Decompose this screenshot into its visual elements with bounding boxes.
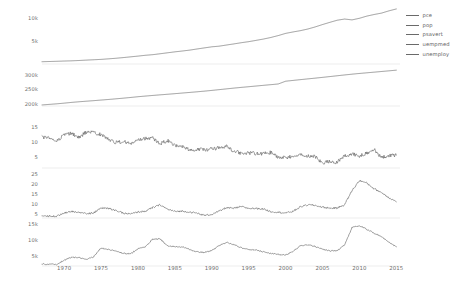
legend-item-psavert[interactable]: psavert xyxy=(406,30,464,40)
y-tick-uempmed-5: 5 xyxy=(35,212,38,217)
legend-line-icon xyxy=(406,34,419,35)
x-tick-2000: 2000 xyxy=(279,266,293,271)
x-tick-1975: 1975 xyxy=(94,266,108,271)
plot-area-pop xyxy=(42,70,400,106)
plot-area-unemploy xyxy=(42,222,400,266)
x-tick-1995: 1995 xyxy=(242,266,256,271)
legend-label: pop xyxy=(423,23,433,28)
x-tick-2005: 2005 xyxy=(315,266,329,271)
legend-label: unemploy xyxy=(423,52,450,57)
legend: pcepoppsavertuempmedunemploy xyxy=(406,11,464,59)
facet-panel-pce: 5k10k xyxy=(0,8,400,64)
data-path-uempmed xyxy=(42,180,396,217)
x-tick-1980: 1980 xyxy=(131,266,145,271)
legend-label: pce xyxy=(423,13,433,18)
series-line-pce xyxy=(42,8,400,64)
facet-panel-unemploy: 5k10k15k xyxy=(0,222,400,266)
facet-panel-pop: 200k250k300k xyxy=(0,70,400,106)
y-tick-pop-250k: 250k xyxy=(25,88,38,93)
legend-label: psavert xyxy=(423,32,443,37)
legend-line-icon xyxy=(406,44,419,45)
data-path-pce xyxy=(42,9,396,62)
chart-root: 5k10k 200k250k300k 51015 510152025 5k10k… xyxy=(0,0,466,293)
y-tick-pce-10k: 10k xyxy=(28,17,38,22)
series-line-pop xyxy=(42,70,400,106)
y-tick-uempmed-15: 15 xyxy=(31,192,38,197)
y-tick-psavert-10: 10 xyxy=(31,140,38,145)
y-tick-psavert-5: 5 xyxy=(35,155,38,160)
y-tick-unemploy-5k: 5k xyxy=(31,255,38,260)
series-line-psavert xyxy=(42,120,400,168)
legend-line-icon xyxy=(406,54,419,55)
y-axis-pop: 200k250k300k xyxy=(0,70,40,106)
legend-item-pce[interactable]: pce xyxy=(406,11,464,21)
y-axis-psavert: 51015 xyxy=(0,120,40,168)
series-line-uempmed xyxy=(42,172,400,218)
legend-item-pop[interactable]: pop xyxy=(406,21,464,31)
y-tick-uempmed-25: 25 xyxy=(31,172,38,177)
x-tick-1970: 1970 xyxy=(57,266,71,271)
legend-line-icon xyxy=(406,15,419,16)
x-axis: 1970197519801985199019952000200520102015 xyxy=(42,266,400,282)
y-tick-psavert-15: 15 xyxy=(31,125,38,130)
y-axis-uempmed: 510152025 xyxy=(0,172,40,218)
x-tick-2015: 2015 xyxy=(389,266,403,271)
y-tick-uempmed-10: 10 xyxy=(31,202,38,207)
y-axis-unemploy: 5k10k15k xyxy=(0,222,40,266)
legend-label: uempmed xyxy=(423,42,450,47)
legend-item-uempmed[interactable]: uempmed xyxy=(406,40,464,50)
legend-item-unemploy[interactable]: unemploy xyxy=(406,49,464,59)
y-tick-pop-300k: 300k xyxy=(25,74,38,79)
facet-panel-uempmed: 510152025 xyxy=(0,172,400,218)
data-path-psavert xyxy=(42,131,396,164)
y-tick-uempmed-20: 20 xyxy=(31,182,38,187)
plot-area-uempmed xyxy=(42,172,400,218)
legend-line-icon xyxy=(406,25,419,26)
x-tick-2010: 2010 xyxy=(352,266,366,271)
plot-area-pce xyxy=(42,8,400,64)
y-tick-pop-200k: 200k xyxy=(25,102,38,107)
y-tick-pce-5k: 5k xyxy=(31,39,38,44)
y-tick-unemploy-15k: 15k xyxy=(28,223,38,228)
y-axis-pce: 5k10k xyxy=(0,8,40,64)
data-path-unemploy xyxy=(42,226,396,265)
data-path-pop xyxy=(42,70,396,105)
x-tick-1985: 1985 xyxy=(168,266,182,271)
facet-panel-psavert: 51015 xyxy=(0,120,400,168)
y-tick-unemploy-10k: 10k xyxy=(28,239,38,244)
series-line-unemploy xyxy=(42,222,400,266)
plot-area-psavert xyxy=(42,120,400,168)
x-tick-1990: 1990 xyxy=(205,266,219,271)
